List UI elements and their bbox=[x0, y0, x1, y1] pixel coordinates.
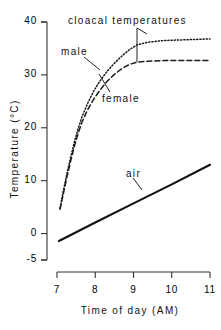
leader-air bbox=[133, 178, 142, 190]
x-tick-label: 10 bbox=[157, 284, 187, 295]
chart-figure: -5010203040 7891011 Temperature (°C) Tim… bbox=[0, 0, 221, 330]
y-axis-title: Temperature (°C) bbox=[9, 109, 20, 199]
leader-cloacal-elbow bbox=[137, 28, 147, 34]
series-line-female bbox=[60, 61, 210, 210]
annotation-male: male bbox=[61, 46, 88, 57]
series-line-male bbox=[60, 39, 210, 208]
x-tick-label: 9 bbox=[119, 284, 149, 295]
y-tick-label: -5 bbox=[0, 253, 37, 264]
plot-area bbox=[0, 0, 221, 330]
y-tick-label: 30 bbox=[0, 68, 37, 79]
x-tick-label: 11 bbox=[195, 284, 221, 295]
x-axis-title: Time of day (AM) bbox=[40, 305, 220, 316]
annotation-female: female bbox=[102, 93, 140, 104]
annotation-cloacal-temperatures: cloacal temperatures bbox=[68, 15, 187, 26]
y-tick-label: 0 bbox=[0, 227, 37, 238]
x-tick-label: 8 bbox=[80, 284, 110, 295]
y-tick-label: 40 bbox=[0, 15, 37, 26]
leader-male bbox=[84, 57, 100, 70]
x-tick-label: 7 bbox=[42, 284, 72, 295]
annotation-air: air bbox=[126, 168, 141, 179]
